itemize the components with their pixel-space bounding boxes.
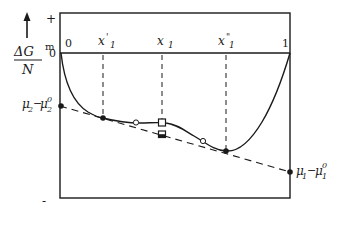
- marker-label-x-double-prime-1: x " 1: [218, 32, 235, 50]
- intercept-dot-left: [58, 103, 64, 109]
- y-axis-arrow-icon: [24, 12, 31, 38]
- gibbs-curve: [61, 53, 290, 151]
- y-label-numerator: ΔG: [13, 44, 34, 59]
- x-label-one: 1: [282, 37, 289, 50]
- svg-text:x: x: [157, 34, 164, 48]
- open-square-curve: [159, 119, 166, 126]
- y-label-denominator: N: [21, 62, 34, 77]
- zero-y-label: 0: [49, 47, 56, 60]
- label-mu2-minus-mu2-0: μ 2 − μ 2 0: [22, 95, 52, 114]
- minus-sign: -: [42, 194, 46, 208]
- svg-text:0: 0: [322, 161, 327, 170]
- svg-text:1: 1: [168, 40, 174, 50]
- marker-label-x-prime-1: x ' 1: [98, 32, 116, 50]
- plot-frame: [60, 13, 290, 198]
- plus-sign: +: [46, 12, 56, 26]
- svg-text:x: x: [218, 34, 225, 48]
- x-label-zero: 0: [65, 37, 72, 50]
- open-circle-left: [133, 120, 138, 125]
- open-circle-right: [200, 138, 205, 143]
- intercept-dot-right: [287, 169, 293, 175]
- svg-text:1: 1: [110, 40, 116, 50]
- svg-text:1: 1: [229, 40, 235, 50]
- svg-text:2: 2: [46, 105, 52, 114]
- marker-label-x-1: x 1: [157, 34, 174, 50]
- svg-text:x: x: [98, 34, 105, 48]
- gibbs-energy-diagram: ΔG m N + 0 - 0 1 x ' 1 x 1 x " 1 μ: [0, 0, 343, 227]
- half-filled-square-tangent: [159, 131, 166, 138]
- svg-text:1: 1: [322, 172, 327, 181]
- label-mu1-minus-mu1-0: μ 1 − μ 1 0: [296, 161, 327, 181]
- svg-text:0: 0: [47, 95, 52, 104]
- svg-text:': ': [106, 32, 108, 42]
- tangent-point-x-prime-1: [100, 115, 106, 121]
- tangent-point-x-double-prime-1: [223, 148, 229, 154]
